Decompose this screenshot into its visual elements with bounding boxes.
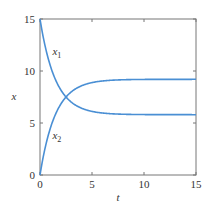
y-tick-label: 10	[24, 65, 36, 77]
y-tick-label: 5	[30, 117, 36, 129]
tick-labels: 051015051015	[24, 13, 202, 190]
x-axis-label: t	[116, 191, 120, 203]
data-series	[40, 19, 196, 175]
x-tick-label: 15	[191, 178, 203, 190]
plot-frame	[40, 19, 196, 175]
y-tick-label: 0	[30, 169, 36, 181]
axis-ticks	[40, 19, 196, 175]
series-label-x2: x2	[51, 129, 61, 144]
x-tick-label: 10	[139, 178, 151, 190]
y-tick-label: 15	[24, 13, 36, 25]
series-labels: x1x2	[51, 45, 61, 143]
chart-canvas: 051015051015 x1x2 t x	[0, 0, 211, 210]
x-tick-label: 0	[37, 178, 43, 190]
x-tick-label: 5	[89, 178, 95, 190]
y-axis-label: x	[11, 90, 17, 102]
series-label-x1: x1	[51, 45, 61, 60]
